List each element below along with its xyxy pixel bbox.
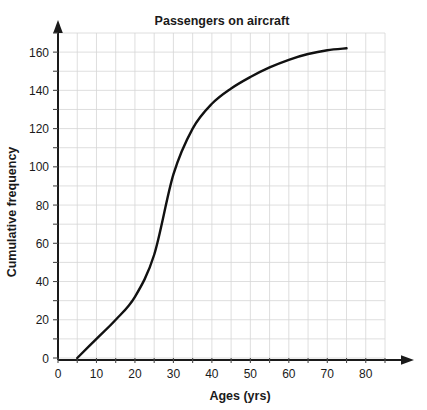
grid-vertical-lines (77, 33, 385, 358)
x-axis-title: Ages (yrs) (209, 389, 270, 403)
x-axis (58, 355, 414, 365)
y-axis-arrow-icon (53, 20, 63, 33)
y-tick-label: 160 (29, 46, 49, 60)
y-axis-tick-labels: 020406080100120140160 (29, 46, 49, 366)
x-axis-arrow-icon (401, 355, 414, 365)
x-tick-label: 30 (167, 367, 181, 381)
x-tick-label: 80 (359, 367, 373, 381)
x-tick-label: 40 (205, 367, 219, 381)
cumulative-frequency-chart: Passengers on aircraft 02040608010012014… (0, 0, 427, 410)
y-tick-label: 40 (36, 275, 50, 289)
y-axis-title: Cumulative frequency (5, 147, 19, 278)
y-tick-label: 20 (36, 313, 50, 327)
x-tick-label: 20 (128, 367, 142, 381)
chart-container: Passengers on aircraft 02040608010012014… (0, 0, 427, 410)
y-tick-label: 140 (29, 84, 49, 98)
x-tick-label: 10 (90, 367, 104, 381)
y-tick-label: 80 (36, 199, 50, 213)
y-tick-label: 120 (29, 122, 49, 136)
y-tick-label: 60 (36, 237, 50, 251)
x-tick-label: 0 (55, 367, 62, 381)
y-tick-label: 100 (29, 160, 49, 174)
y-tick-label: 0 (42, 352, 49, 366)
x-tick-label: 50 (244, 367, 258, 381)
grid-horizontal-lines (58, 33, 385, 358)
x-axis-tick-labels: 01020304050607080 (55, 367, 373, 381)
x-tick-label: 60 (282, 367, 296, 381)
chart-title: Passengers on aircraft (155, 14, 291, 28)
x-tick-label: 70 (321, 367, 335, 381)
